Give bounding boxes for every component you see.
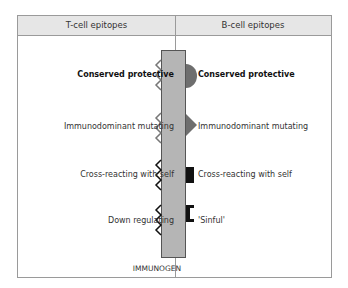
t-cell-label-immunodominant-mutating: Immunodominant mutating bbox=[64, 122, 174, 131]
t-cell-label-cross-reacting: Cross-reacting with self bbox=[80, 170, 174, 179]
bracket-icon bbox=[186, 205, 195, 222]
b-cell-label-sinful: 'Sinful' bbox=[198, 216, 225, 225]
t-cell-label-down-regulating: Down regulating bbox=[108, 216, 174, 225]
b-cell-label-immunodominant-mutating: Immunodominant mutating bbox=[198, 122, 308, 131]
b-cell-header: B-cell epitopes bbox=[175, 16, 331, 35]
square-icon bbox=[186, 167, 195, 183]
immunogen-label: IMMUNOGEN bbox=[133, 264, 181, 273]
t-cell-header: T-cell epitopes bbox=[18, 16, 175, 35]
triangle-icon bbox=[186, 114, 198, 136]
semicircle-icon bbox=[186, 64, 198, 88]
b-cell-label-conserved-protective: Conserved protective bbox=[198, 70, 295, 79]
immunogen-bar bbox=[161, 50, 186, 258]
t-cell-label-conserved-protective: Conserved protective bbox=[77, 70, 174, 79]
b-cell-label-cross-reacting: Cross-reacting with self bbox=[198, 170, 292, 179]
